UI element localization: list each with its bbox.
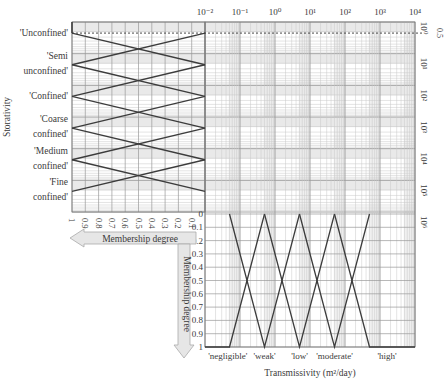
svg-text:0.8: 0.8 [94, 218, 104, 229]
svg-text:'high': 'high' [377, 351, 397, 361]
chart-canvas: 10⁻²10⁻¹10⁰10¹10²10³10⁴10⁰10¹10²10³10⁴10… [0, 0, 447, 389]
svg-text:'moderate': 'moderate' [316, 351, 353, 361]
svg-text:0.7: 0.7 [107, 218, 117, 229]
svg-text:10⁻²: 10⁻² [197, 7, 214, 17]
svg-text:10³: 10³ [374, 7, 386, 17]
svg-text:'Medium: 'Medium [34, 146, 69, 156]
svg-text:0.8: 0.8 [192, 315, 204, 325]
svg-text:0.9: 0.9 [80, 218, 90, 229]
svg-text:Storativity: Storativity [2, 97, 12, 137]
svg-text:confined': confined' [33, 192, 68, 202]
grid-lines [72, 22, 415, 347]
svg-text:0.2: 0.2 [173, 218, 183, 229]
svg-text:10⁴: 10⁴ [409, 7, 421, 17]
svg-text:'Semi: 'Semi [47, 51, 69, 61]
svg-text:1: 1 [199, 342, 204, 352]
svg-text:0.7: 0.7 [192, 302, 204, 312]
svg-text:'Fine: 'Fine [49, 177, 68, 187]
svg-text:confined': confined' [33, 161, 68, 171]
fuzzy-membership-chart: 10⁻²10⁻¹10⁰10¹10²10³10⁴10⁰10¹10²10³10⁴10… [0, 0, 447, 389]
svg-text:0.6: 0.6 [120, 218, 130, 229]
svg-text:10⁵: 10⁵ [419, 184, 429, 196]
svg-text:1: 1 [67, 218, 77, 222]
svg-text:Transmissivity (m²/day): Transmissivity (m²/day) [264, 368, 355, 379]
svg-text:0.5: 0.5 [134, 218, 144, 229]
svg-text:Membership degree: Membership degree [182, 256, 192, 332]
svg-text:'low': 'low' [291, 351, 308, 361]
svg-text:0.4: 0.4 [192, 262, 204, 272]
svg-text:0.5: 0.5 [435, 28, 444, 38]
svg-text:confined': confined' [33, 129, 68, 139]
svg-text:'Confined': 'Confined' [29, 91, 68, 101]
svg-text:0: 0 [199, 209, 204, 219]
svg-text:0.9: 0.9 [192, 329, 204, 339]
svg-text:10²: 10² [419, 89, 429, 101]
svg-text:10⁶: 10⁶ [419, 216, 429, 228]
svg-text:10²: 10² [339, 7, 351, 17]
svg-text:10¹: 10¹ [304, 7, 316, 17]
svg-text:0.4: 0.4 [147, 218, 157, 229]
svg-text:'Unconfined': 'Unconfined' [20, 28, 69, 38]
svg-text:10⁻¹: 10⁻¹ [232, 7, 249, 17]
svg-text:0.5: 0.5 [192, 276, 204, 286]
svg-text:'negligible': 'negligible' [208, 351, 248, 361]
svg-text:'weak': 'weak' [253, 351, 276, 361]
svg-text:10⁰: 10⁰ [269, 7, 282, 17]
svg-text:10¹: 10¹ [419, 58, 429, 70]
svg-text:10⁴: 10⁴ [419, 153, 429, 165]
svg-text:0.6: 0.6 [192, 289, 204, 299]
svg-text:10⁰: 10⁰ [419, 22, 429, 35]
svg-text:Membership degree: Membership degree [102, 234, 178, 244]
svg-text:10³: 10³ [419, 121, 429, 133]
svg-text:0.1: 0.1 [192, 222, 203, 232]
svg-text:0.3: 0.3 [192, 249, 204, 259]
svg-text:unconfined': unconfined' [24, 66, 69, 76]
svg-text:0.3: 0.3 [160, 218, 170, 229]
svg-text:'Coarse: 'Coarse [40, 114, 68, 124]
